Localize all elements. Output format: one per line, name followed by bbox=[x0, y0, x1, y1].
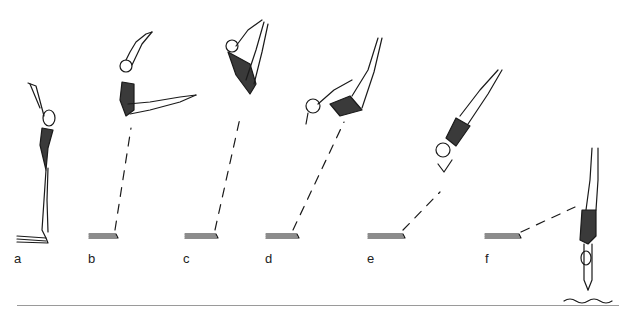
diving-board-c bbox=[185, 234, 218, 238]
stage-label-e: e bbox=[367, 251, 374, 266]
diver-stage-a bbox=[28, 83, 55, 238]
diving-board-f bbox=[485, 234, 521, 238]
diver-stage-f bbox=[564, 148, 612, 303]
diver-stage-d bbox=[306, 38, 382, 124]
stage-label-c: c bbox=[183, 251, 190, 266]
diving-board-e bbox=[368, 234, 405, 238]
bottom-divider bbox=[17, 305, 619, 306]
diving-sequence-illustration bbox=[0, 0, 636, 325]
diver-stage-e bbox=[436, 70, 502, 172]
diver-stage-c bbox=[226, 20, 268, 94]
stage-label-d: d bbox=[265, 251, 272, 266]
diver-stage-b bbox=[120, 32, 196, 116]
stage-label-f: f bbox=[485, 251, 489, 266]
diving-board-d bbox=[266, 234, 299, 238]
diving-board-a bbox=[17, 236, 48, 243]
stage-label-b: b bbox=[88, 251, 95, 266]
stage-label-a: a bbox=[14, 251, 21, 266]
diving-board-b bbox=[89, 234, 118, 238]
